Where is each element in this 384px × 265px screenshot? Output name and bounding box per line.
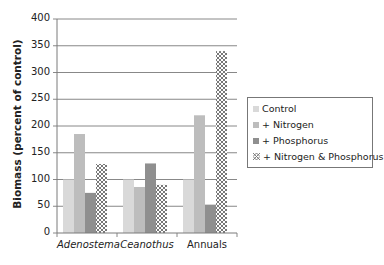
- y-tick-label: 50: [20, 199, 50, 210]
- crosshatch-swatch-icon: [253, 153, 260, 160]
- bar: [194, 115, 205, 233]
- x-tick-label: Adenostema: [57, 239, 117, 250]
- bar: [74, 134, 85, 233]
- nitrogen-swatch-icon: [253, 122, 259, 128]
- y-tick-label: 0: [20, 226, 50, 237]
- bar: [96, 164, 107, 233]
- bar: [216, 51, 227, 233]
- y-tick-label: 350: [20, 39, 50, 50]
- bar: [205, 205, 216, 233]
- phosphorus-swatch-icon: [253, 138, 259, 144]
- y-tick-label: 150: [20, 146, 50, 157]
- bar: [85, 193, 96, 233]
- bar: [156, 185, 167, 233]
- bar: [145, 163, 156, 233]
- bar: [63, 180, 74, 234]
- legend-item-control: Control: [253, 102, 296, 116]
- x-tick-label: Annuals: [177, 239, 237, 250]
- bar: [134, 187, 145, 233]
- control-swatch-icon: [253, 106, 259, 112]
- bar: [183, 180, 194, 234]
- y-tick-label: 400: [20, 12, 50, 23]
- y-tick-label: 250: [20, 92, 50, 103]
- legend-item-phosphorus: + Phosphorus: [253, 134, 328, 148]
- y-tick-label: 200: [20, 119, 50, 130]
- legend-item-nitrogen: + Nitrogen: [253, 118, 314, 132]
- legend-item-nitrogen-phosphorus: + Nitrogen & Phosphorus: [253, 150, 384, 164]
- y-tick-label: 300: [20, 66, 50, 77]
- bars: [63, 51, 227, 233]
- x-tick-label: Ceanothus: [117, 239, 177, 250]
- y-tick-label: 100: [20, 173, 50, 184]
- bar: [123, 180, 134, 234]
- legend: Control + Nitrogen + Phosphorus + Nitrog…: [247, 97, 373, 168]
